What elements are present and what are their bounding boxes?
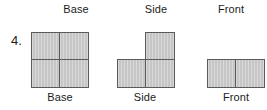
shape-base-view — [32, 33, 88, 87]
unit-square — [145, 32, 175, 61]
column-header-side: Side — [127, 2, 185, 16]
unit-square — [59, 59, 89, 88]
shape-label-side: Side — [116, 90, 174, 104]
item-number: 4. — [11, 33, 22, 48]
unit-square — [31, 59, 61, 88]
unit-square — [235, 59, 265, 88]
unit-square — [59, 32, 89, 61]
unit-square — [145, 59, 175, 88]
column-header-front: Front — [199, 2, 263, 16]
unit-square — [117, 59, 147, 88]
shape-label-base: Base — [25, 90, 95, 104]
unit-square — [207, 59, 237, 88]
column-header-base: Base — [41, 2, 111, 16]
unit-square — [31, 32, 61, 61]
shape-side-view — [118, 33, 173, 87]
shape-label-front: Front — [204, 90, 267, 104]
shape-front-view — [208, 60, 264, 87]
empty-grid-slot — [118, 33, 146, 60]
worksheet-figure: Base Side Front 4. Base Side Front — [0, 0, 267, 110]
